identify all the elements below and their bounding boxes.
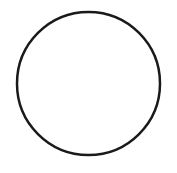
drawing-canvas: Hand-drawn circle outline on plain white…: [0, 0, 177, 173]
circle-figure: [0, 0, 177, 173]
canvas-background: [0, 0, 177, 173]
